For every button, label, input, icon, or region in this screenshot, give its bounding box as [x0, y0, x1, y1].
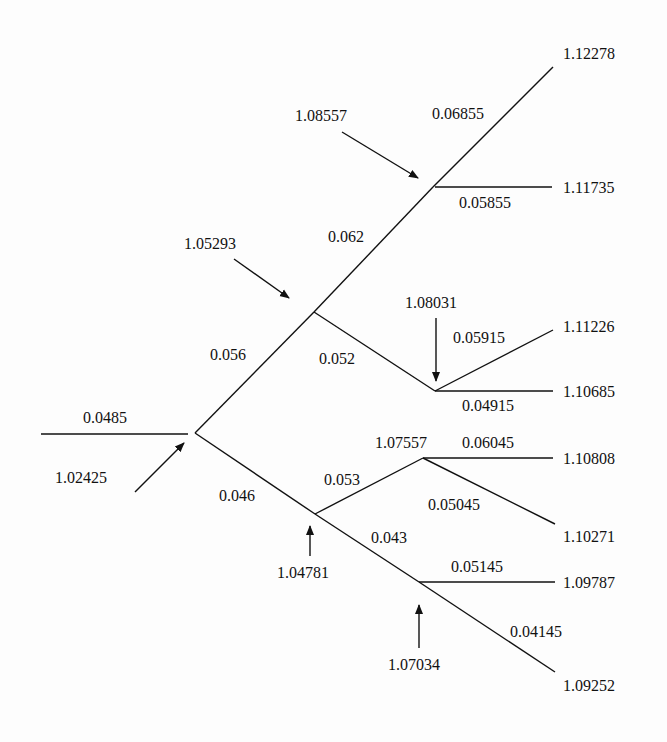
branch-dud — [423, 458, 555, 524]
branch-rate: 0.05145 — [451, 559, 503, 575]
leaf-value: 1.10685 — [563, 384, 615, 400]
leaf-value: 1.11226 — [563, 319, 614, 335]
branch-rate: 0.052 — [319, 351, 355, 367]
branch-rate: 0.04145 — [510, 624, 562, 640]
branch-d — [195, 433, 315, 514]
branch-rate: 0.05915 — [453, 330, 505, 346]
branch-rate: 0.053 — [324, 472, 360, 488]
branch-rate-root: 0.0485 — [83, 410, 127, 426]
node-value-u: 1.05293 — [184, 236, 236, 252]
node-value-du: 1.07557 — [375, 435, 427, 451]
branch-rate: 0.043 — [371, 530, 407, 546]
leaf-value: 1.11735 — [563, 180, 614, 196]
branch-rate: 0.05045 — [428, 497, 480, 513]
branch-rate: 0.06045 — [462, 435, 514, 451]
branch-uuu — [433, 67, 553, 187]
rate-tree-diagram: 1.02425 1.05293 1.04781 1.08557 1.08031 … — [0, 0, 667, 742]
arrow-n-uu — [342, 132, 418, 178]
node-value-dd: 1.07034 — [388, 657, 440, 673]
branch-rate: 0.046 — [219, 488, 255, 504]
node-value-ud: 1.08031 — [405, 295, 457, 311]
branch-rate: 0.05855 — [459, 195, 511, 211]
leaf-value: 1.10808 — [563, 451, 615, 467]
branch-rate: 0.04915 — [462, 398, 514, 414]
node-value-root: 1.02425 — [55, 470, 107, 486]
leaf-value: 1.12278 — [563, 46, 615, 62]
leaf-value: 1.10271 — [563, 529, 615, 545]
leaf-value: 1.09787 — [563, 575, 615, 591]
arrow-n0 — [135, 443, 184, 492]
branch-rate: 0.06855 — [432, 106, 484, 122]
branch-rate: 0.056 — [210, 347, 246, 363]
branch-rate: 0.062 — [328, 229, 364, 245]
node-value-d: 1.04781 — [277, 565, 329, 581]
arrow-n-u — [234, 259, 289, 298]
node-value-uu: 1.08557 — [295, 108, 347, 124]
branch-dd — [315, 514, 419, 582]
leaf-value: 1.09252 — [563, 678, 615, 694]
branch-u — [195, 312, 314, 433]
